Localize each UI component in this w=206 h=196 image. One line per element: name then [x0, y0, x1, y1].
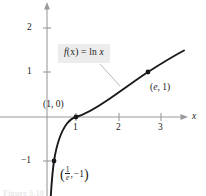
curve-equation-callout: f(x) = ln x: [58, 44, 110, 63]
figure-ln-x-graph: 2 1 −1 1 2 3 x f(x) = ln x (1, 0) (e, 1)…: [0, 0, 206, 196]
curve-equation-equals: = ln: [79, 47, 100, 57]
fraction-denominator: e: [65, 173, 70, 182]
curve-equation-var: x: [100, 47, 104, 57]
y-axis-arrow: [44, 2, 50, 10]
x-axis-label: x: [192, 112, 196, 122]
figure-caption: Figure 5.10: [3, 188, 44, 196]
x-tick-label-2: 2: [116, 123, 121, 133]
curve-equation-arg: (x): [67, 47, 79, 57]
paren-close: ): [84, 168, 89, 182]
x-tick-label-3: 3: [158, 123, 163, 133]
y-tick-label-1: 1: [27, 67, 32, 77]
fraction-numerator: 1: [65, 166, 71, 174]
point-marker-e-1: [146, 70, 151, 75]
y-tick-label-2: 2: [27, 23, 32, 33]
y-tick-label-neg-1: −1: [21, 156, 31, 166]
label-comma: ,: [70, 170, 72, 180]
fraction-one-over-e: 1 e: [65, 166, 71, 183]
point-label-1-0: (1, 0): [43, 100, 64, 110]
point-label-inv-e-neg-1: ( 1 e , −1 ): [60, 166, 89, 183]
point-label-e-1: (e, 1): [150, 83, 170, 93]
label-second-coord: −1: [74, 170, 84, 180]
point-marker-inv-e-neg1: [52, 159, 57, 164]
callout-leader-line: [100, 64, 120, 86]
point-marker-1-0: [74, 115, 79, 120]
x-axis-arrow: [181, 114, 189, 120]
x-tick-label-1: 1: [73, 123, 78, 133]
